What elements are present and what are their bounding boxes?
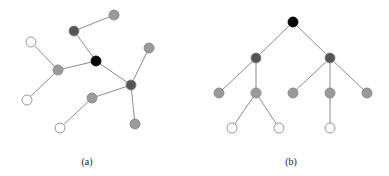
edge [31, 42, 58, 70]
node-gray [144, 43, 154, 53]
edge [219, 58, 256, 93]
node-dark [251, 53, 261, 63]
node-white [227, 123, 237, 133]
edge [27, 70, 58, 100]
node-gray [251, 88, 261, 98]
node-white [22, 95, 32, 105]
graph-b [214, 17, 372, 133]
node-dark [325, 53, 335, 63]
figure-canvas: (a) (b) [0, 0, 389, 176]
caption-a: (a) [81, 156, 92, 167]
edge [256, 93, 279, 128]
graph-diagram [0, 0, 389, 176]
node-gray [109, 10, 119, 20]
node-gray [325, 88, 335, 98]
node-white [274, 123, 284, 133]
edge [293, 58, 330, 93]
caption-b: (b) [285, 156, 297, 167]
edge [330, 58, 367, 93]
node-white [26, 37, 36, 47]
node-white [55, 123, 65, 133]
edge [74, 15, 114, 31]
node-dark [126, 80, 136, 90]
edge [74, 31, 96, 61]
node-gray [288, 88, 298, 98]
edge [131, 48, 149, 85]
node-gray [53, 65, 63, 75]
node-dark [69, 26, 79, 36]
node-gray [362, 88, 372, 98]
edge [256, 22, 293, 58]
edge [131, 85, 135, 124]
edge [232, 93, 256, 128]
node-gray [87, 93, 97, 103]
node-black [288, 17, 298, 27]
edge [58, 61, 96, 70]
edge [60, 98, 92, 128]
edge [92, 85, 131, 98]
graph-a [22, 10, 154, 133]
node-black [91, 56, 101, 66]
node-gray [214, 88, 224, 98]
node-white [325, 123, 335, 133]
edge [96, 61, 131, 85]
edge [293, 22, 330, 58]
node-gray [130, 119, 140, 129]
